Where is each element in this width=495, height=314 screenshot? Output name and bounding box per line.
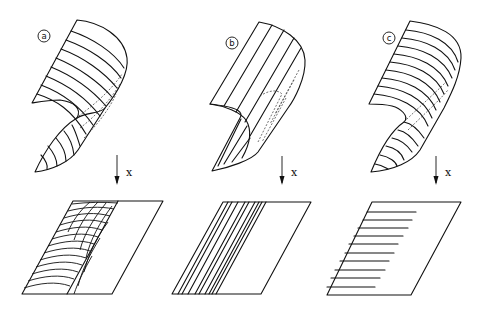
panel-b: b x bbox=[172, 22, 311, 294]
panel-a-projection-arrow: x bbox=[115, 155, 134, 185]
panel-b-label: b bbox=[226, 37, 238, 49]
svg-text:x: x bbox=[445, 166, 452, 179]
panel-b-surface bbox=[210, 22, 305, 171]
panel-a-label: a bbox=[38, 30, 50, 42]
panel-c-projection-arrow: x bbox=[434, 156, 453, 185]
panel-c-projection bbox=[327, 202, 461, 295]
panel-a: a bbox=[22, 20, 163, 294]
panel-a-surface bbox=[32, 20, 127, 172]
svg-text:x: x bbox=[291, 166, 298, 179]
svg-text:a: a bbox=[41, 31, 46, 41]
panel-b-projection-arrow: x bbox=[280, 156, 299, 185]
svg-text:x: x bbox=[126, 166, 133, 179]
panel-c-label: c bbox=[383, 32, 395, 44]
svg-text:c: c bbox=[387, 33, 392, 43]
panel-c: c bbox=[327, 21, 461, 295]
diagram-canvas: a bbox=[0, 0, 495, 314]
panel-a-projection bbox=[22, 201, 163, 294]
panel-b-projection bbox=[172, 202, 311, 294]
svg-text:b: b bbox=[229, 38, 234, 48]
panel-c-surface bbox=[369, 21, 461, 172]
